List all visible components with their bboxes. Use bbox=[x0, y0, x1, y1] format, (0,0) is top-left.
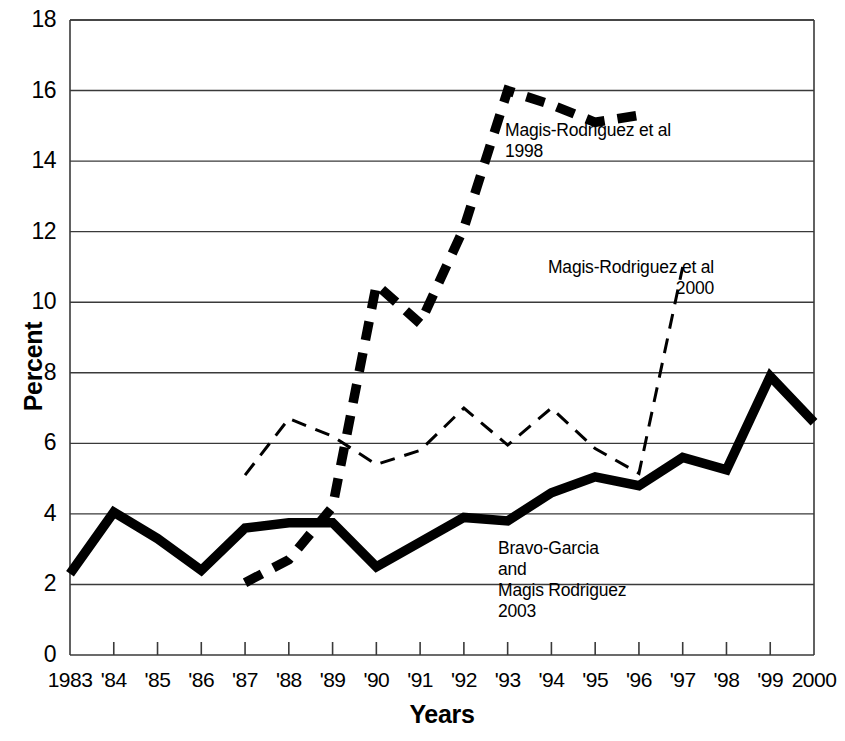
series-line bbox=[70, 376, 814, 574]
data-series-layer bbox=[70, 91, 814, 583]
gridlines bbox=[70, 20, 814, 584]
series-line bbox=[245, 91, 639, 583]
annotation-magis-1998: Magis-Rodriguez et al 1998 bbox=[505, 120, 671, 162]
plot-area bbox=[0, 0, 845, 741]
annotation-bravo-2003: Bravo-Garcia and Magis Rodriguez 2003 bbox=[498, 538, 626, 622]
annotation-magis-2000: Magis-Rodriguez et al 2000 bbox=[490, 257, 714, 299]
chart-figure: Percent Years 024681012141618 1983'84'85… bbox=[0, 0, 845, 741]
x-axis-ticks bbox=[114, 642, 770, 655]
